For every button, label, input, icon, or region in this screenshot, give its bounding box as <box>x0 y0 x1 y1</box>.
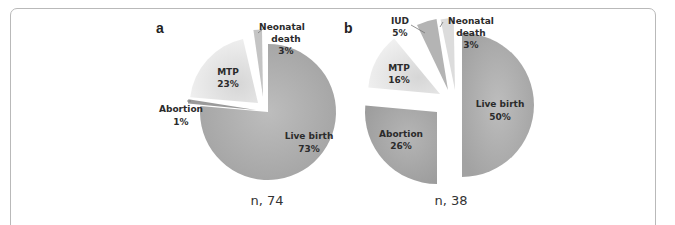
pct-neonatal-a: 3% <box>278 46 293 56</box>
pct-live-birth-a: 73% <box>298 144 320 154</box>
panel-letter-a: a <box>156 20 164 36</box>
pie-chart-a: a Neonatal death 3% MTP 23% Abortion 1% … <box>156 20 336 208</box>
sample-size-b: n, 38 <box>434 193 467 208</box>
label-iud-b: IUD <box>391 16 409 26</box>
pct-iud-b: 5% <box>392 28 407 38</box>
pct-live-birth-b: 50% <box>489 112 511 122</box>
figure-canvas: a Neonatal death 3% MTP 23% Abortion 1% … <box>0 0 675 225</box>
pct-mtp-a: 23% <box>217 79 239 89</box>
sample-size-a: n, 74 <box>250 193 283 208</box>
label-live-birth-a: Live birth <box>285 131 334 141</box>
label-abortion-b: Abortion <box>379 129 423 139</box>
slice-neonatal-a <box>253 29 263 97</box>
pct-neonatal-b: 3% <box>463 40 478 50</box>
label-mtp-a: MTP <box>217 67 239 77</box>
pie-chart-b: b IUD 5% Neonatal death 3% MTP 16% Abort… <box>344 16 534 208</box>
pct-abortion-a: 1% <box>173 117 188 127</box>
label-neonatal-b-line2: death <box>456 28 485 38</box>
label-neonatal-b: Neonatal <box>448 16 494 26</box>
slice-neonatal-b <box>441 18 456 90</box>
panel-letter-b: b <box>344 20 353 36</box>
pct-abortion-b: 26% <box>390 141 412 151</box>
label-live-birth-b: Live birth <box>476 99 525 109</box>
label-abortion-a: Abortion <box>159 104 203 114</box>
label-neonatal-a-line2: death <box>271 34 300 44</box>
pct-mtp-b: 16% <box>388 75 410 85</box>
label-neonatal-a: Neonatal <box>259 22 305 32</box>
label-mtp-b: MTP <box>388 63 410 73</box>
